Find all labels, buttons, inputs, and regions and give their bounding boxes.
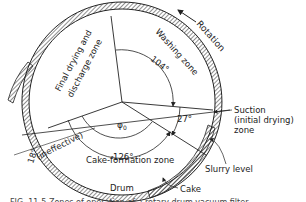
suction-label-1: Suction bbox=[234, 105, 266, 115]
suction-label-2: (initial drying) bbox=[234, 115, 294, 125]
leader-lines bbox=[163, 110, 232, 188]
drum-filter-diagram: Rotation Washing zone 104° Final drying … bbox=[0, 0, 306, 202]
cake-label: Cake bbox=[180, 184, 201, 194]
figure-caption: FIG. 11-5 Zones of operation of a rotary… bbox=[10, 198, 250, 202]
phi-label: φ0 bbox=[117, 120, 127, 131]
ineffective-angle-label: 18° bbox=[25, 147, 39, 164]
suction-label-3: zone bbox=[234, 125, 254, 135]
washing-angle-label: 104° bbox=[149, 54, 171, 74]
suction-angle-label: 27° bbox=[177, 114, 192, 124]
slurry-level-label: Slurry level bbox=[205, 164, 253, 174]
rotation-arrow bbox=[178, 10, 196, 22]
cake-formation-zone-label: Cake-formation zone bbox=[86, 155, 174, 165]
drum-label: Drum bbox=[110, 183, 134, 193]
